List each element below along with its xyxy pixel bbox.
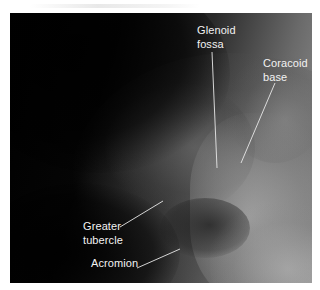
label-line: base xyxy=(263,70,308,84)
label-glenoid-fossa: Glenoid fossa xyxy=(197,23,236,51)
scan-artifact xyxy=(30,4,200,8)
radiograph-shading xyxy=(10,13,312,283)
label-line: tubercle xyxy=(83,233,123,247)
label-line: Coracoid xyxy=(263,56,308,70)
label-greater-tubercle: Greater tubercle xyxy=(83,219,123,247)
label-line: Acromion xyxy=(91,256,138,270)
label-line: Greater xyxy=(83,219,123,233)
xray-image xyxy=(10,13,312,283)
label-coracoid-base: Coracoid base xyxy=(263,56,308,84)
label-line: Glenoid xyxy=(197,23,236,37)
label-line: fossa xyxy=(197,37,236,51)
label-acromion: Acromion xyxy=(91,256,138,270)
